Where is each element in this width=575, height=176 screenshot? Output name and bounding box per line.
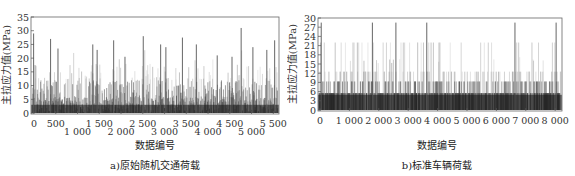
y-axis: 05101520253035 bbox=[17, 12, 34, 119]
svg-text:5 000: 5 000 bbox=[238, 126, 265, 137]
chart-b-caption: b)标准车辆荷载 bbox=[372, 157, 502, 172]
svg-text:1 000: 1 000 bbox=[64, 126, 91, 137]
svg-text:3 000: 3 000 bbox=[151, 126, 178, 137]
chart-b-xlabel: 数据编号 bbox=[387, 137, 487, 152]
svg-text:4 000: 4 000 bbox=[424, 115, 451, 126]
svg-text:2 000: 2 000 bbox=[365, 115, 392, 126]
svg-text:4 000: 4 000 bbox=[194, 126, 221, 137]
bars bbox=[318, 23, 562, 110]
svg-text:0: 0 bbox=[317, 115, 323, 126]
chart-panel-a: 0510152025303505001 5002 5003 5004 5005 … bbox=[0, 0, 290, 176]
x-axis: 05001 5002 5003 5004 5005 5001 0002 0003… bbox=[31, 111, 287, 137]
svg-text:7 000: 7 000 bbox=[512, 115, 539, 126]
svg-text:8 000: 8 000 bbox=[542, 115, 569, 126]
svg-text:25: 25 bbox=[17, 39, 29, 50]
chart-panel-b: 03691215182124273001 0002 0003 0004 0005… bbox=[287, 0, 575, 176]
svg-text:0: 0 bbox=[31, 118, 37, 129]
svg-text:500: 500 bbox=[47, 118, 65, 129]
svg-text:20: 20 bbox=[17, 53, 29, 64]
chart-a-caption: a)原始随机交通荷载 bbox=[90, 157, 220, 172]
svg-text:15: 15 bbox=[17, 66, 29, 77]
svg-text:2 000: 2 000 bbox=[107, 126, 134, 137]
bars bbox=[31, 28, 279, 113]
svg-text:3 000: 3 000 bbox=[395, 115, 422, 126]
svg-text:35: 35 bbox=[17, 12, 29, 23]
svg-text:10: 10 bbox=[17, 80, 29, 91]
svg-text:30: 30 bbox=[304, 13, 316, 24]
y-axis-label: 主拉应力值(MPa) bbox=[0, 25, 12, 105]
svg-text:0: 0 bbox=[23, 108, 29, 119]
svg-text:6 000: 6 000 bbox=[483, 115, 510, 126]
svg-text:1 000: 1 000 bbox=[336, 115, 363, 126]
svg-text:5: 5 bbox=[23, 94, 29, 105]
chart-a-xlabel: 数据编号 bbox=[105, 137, 205, 152]
y-axis-label: 主拉应力值(MPa) bbox=[287, 24, 298, 104]
svg-text:30: 30 bbox=[17, 25, 29, 36]
svg-text:5 000: 5 000 bbox=[453, 115, 480, 126]
